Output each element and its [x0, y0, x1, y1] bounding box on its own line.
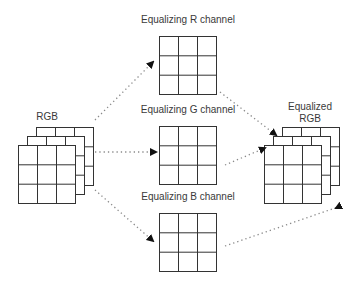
- arrowhead-from-b: [336, 207, 338, 208]
- output-label-line2: RGB: [275, 113, 345, 125]
- output-label: Equalized RGB: [275, 101, 345, 125]
- diagram-canvas: [0, 0, 360, 284]
- input-rgb-stack: [19, 128, 94, 204]
- input-label: RGB: [22, 111, 72, 122]
- r-channel-grid: [160, 37, 217, 95]
- output-rgb-stack: [265, 128, 340, 204]
- g-channel-grid: [160, 127, 217, 185]
- g-channel-label: Equalizing G channel: [128, 104, 248, 115]
- input-arrows: [95, 62, 156, 241]
- b-channel-grid: [160, 214, 217, 272]
- b-channel-label: Equalizing B channel: [128, 191, 248, 202]
- arrow-from-g: [225, 148, 265, 165]
- output-layer-front: [265, 146, 322, 204]
- r-channel-label: Equalizing R channel: [128, 14, 248, 25]
- input-layer-front: [19, 146, 76, 204]
- line-from-b: [225, 207, 338, 246]
- output-label-line1: Equalized: [275, 101, 345, 113]
